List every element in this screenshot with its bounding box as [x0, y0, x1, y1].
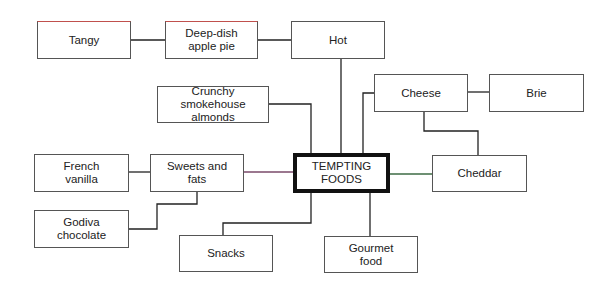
node-cheddar: Cheddar: [432, 155, 527, 192]
node-tangy: Tangy: [37, 21, 131, 59]
node-deep-dish-apple-pie: Deep-dish apple pie: [165, 21, 258, 59]
edge-almonds-center: [268, 104, 311, 153]
edge-sweets-godiva: [128, 191, 197, 229]
node-cheese: Cheese: [374, 74, 468, 112]
concept-map: Tangy Deep-dish apple pie Hot Cheese Bri…: [0, 0, 613, 293]
node-gourmet-food: Gourmet food: [324, 236, 418, 273]
edge-center-snacks: [223, 192, 311, 235]
node-godiva-chocolate: Godiva chocolate: [34, 210, 129, 248]
edge-cheese-center: [363, 93, 374, 153]
node-snacks: Snacks: [179, 235, 273, 272]
node-sweets-and-fats: Sweets and fats: [150, 154, 244, 192]
node-french-vanilla: French vanilla: [34, 154, 129, 192]
edge-cheese-cheddar: [424, 111, 478, 155]
node-crunchy-smokehouse-almonds: Crunchy smokehouse almonds: [157, 86, 269, 123]
node-hot: Hot: [291, 21, 385, 59]
node-brie: Brie: [489, 74, 584, 112]
node-tempting-foods: TEMPTING FOODS: [293, 153, 390, 193]
